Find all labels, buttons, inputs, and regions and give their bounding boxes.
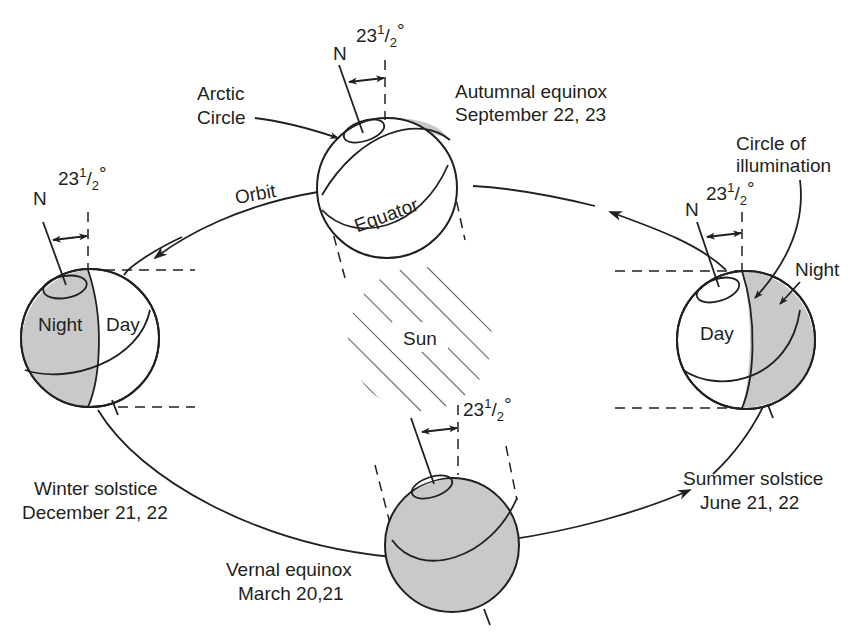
tilt-label: 231/2°	[58, 163, 107, 193]
day-label: Day	[700, 323, 734, 344]
pole-label: N	[685, 199, 699, 220]
vernal-label-1: Vernal equinox	[226, 559, 352, 580]
orbit-label: Orbit	[233, 180, 278, 208]
tilt-label: 231/2°	[356, 20, 405, 50]
arctic-label-2: Circle	[197, 107, 246, 128]
pole-label: N	[333, 43, 347, 64]
autumnal-label-1: Autumnal equinox	[455, 81, 608, 102]
diagram-canvas: Sun N 231/2° Equator Autumnal equinox Se…	[0, 0, 867, 633]
tilt-label: 231/2°	[706, 178, 755, 208]
tilt-label: 231/2°	[463, 394, 512, 424]
vernal-label-2: March 20,21	[238, 583, 344, 604]
globe-summer-solstice: N 231/2° Day Night Circle of illuminatio…	[615, 133, 840, 513]
winter-label-1: Winter solstice	[34, 478, 158, 499]
globe-winter-solstice: N 231/2° Night Day Winter solstice Decem…	[21, 163, 195, 523]
globe-vernal-equinox: 231/2° Vernal equinox March 20,21	[226, 394, 519, 625]
summer-label-1: Summer solstice	[683, 468, 823, 489]
summer-label-2: June 21, 22	[700, 492, 799, 513]
arctic-label-1: Arctic	[197, 83, 245, 104]
sun-label: Sun	[403, 328, 437, 349]
winter-label-2: December 21, 22	[22, 502, 168, 523]
illumination-label-1: Circle of	[736, 133, 806, 154]
night-label: Night	[795, 259, 840, 280]
globe-autumnal-equinox: N 231/2° Equator Autumnal equinox Septem…	[197, 20, 608, 278]
orbit-diagram: Sun N 231/2° Equator Autumnal equinox Se…	[0, 0, 867, 633]
pole-label: N	[33, 188, 47, 209]
autumnal-label-2: September 22, 23	[455, 104, 606, 125]
day-label: Day	[106, 314, 140, 335]
night-label: Night	[38, 314, 83, 335]
illumination-label-2: illumination	[736, 155, 831, 176]
